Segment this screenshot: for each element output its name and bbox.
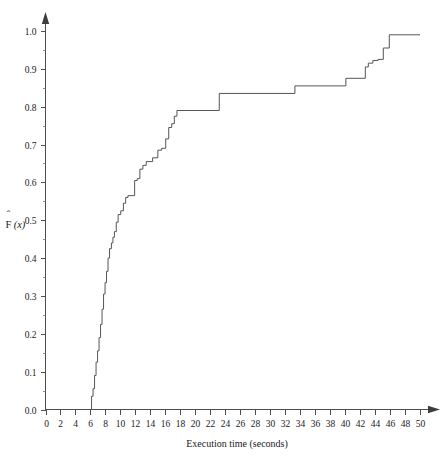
y-axis-title-base: F [6,219,12,230]
y-axis: 0.00.10.20.30.40.50.60.70.80.91.0 [25,12,50,416]
x-tick-label-20: 20 [191,419,201,429]
x-axis-title: Execution time (seconds) [186,438,288,450]
x-tick-label-22: 22 [206,419,216,429]
x-tick-label-46: 46 [386,419,396,429]
x-tick-label-26: 26 [236,419,246,429]
y-tick-label-0.5: 0.5 [25,216,37,226]
x-tick-label-34: 34 [296,419,306,429]
y-tick-label-0.9: 0.9 [25,65,37,75]
y-axis-title: ˆ F (x) [6,209,26,231]
chart-canvas: 0.00.10.20.30.40.50.60.70.80.91.0 024681… [0,0,445,455]
x-axis: 0246810121416182022242628303234363840424… [44,406,440,429]
y-axis-tick-labels: 0.00.10.20.30.40.50.60.70.80.91.0 [25,27,37,416]
x-tick-label-44: 44 [371,419,381,429]
x-tick-label-18: 18 [176,419,186,429]
x-tick-label-40: 40 [341,419,351,429]
y-axis-arrow-icon [42,12,49,24]
x-tick-label-48: 48 [401,419,411,429]
x-tick-label-12: 12 [131,419,141,429]
x-tick-label-2: 2 [58,419,63,429]
x-axis-arrow-icon [428,406,440,413]
x-tick-label-4: 4 [73,419,78,429]
y-tick-label-0.6: 0.6 [25,178,37,188]
x-tick-label-24: 24 [221,419,231,429]
x-tick-label-50: 50 [416,419,426,429]
y-tick-label-0.3: 0.3 [25,292,37,302]
x-axis-tick-labels: 0246810121416182022242628303234363840424… [44,419,425,429]
y-tick-label-0.1: 0.1 [25,368,37,378]
y-tick-label-0.4: 0.4 [25,254,37,264]
x-tick-label-38: 38 [326,419,336,429]
x-tick-label-10: 10 [116,419,126,429]
ecdf-chart: 0.00.10.20.30.40.50.60.70.80.91.0 024681… [0,0,445,455]
y-axis-title-arg: (x) [14,219,26,231]
y-tick-label-1.0: 1.0 [25,27,37,37]
y-tick-label-0.7: 0.7 [25,141,37,151]
x-tick-label-30: 30 [266,419,276,429]
x-axis-major-ticks [47,410,421,415]
y-tick-label-0.2: 0.2 [25,330,37,340]
x-tick-label-36: 36 [311,419,321,429]
x-tick-label-0: 0 [44,419,49,429]
x-tick-label-8: 8 [103,419,108,429]
x-tick-label-14: 14 [146,419,156,429]
x-tick-label-6: 6 [88,419,93,429]
x-tick-label-32: 32 [281,419,291,429]
x-tick-label-16: 16 [161,419,171,429]
y-tick-label-0.8: 0.8 [25,103,37,113]
x-tick-label-42: 42 [356,419,366,429]
x-tick-label-28: 28 [251,419,261,429]
y-tick-label-0.0: 0.0 [25,406,37,416]
ecdf-step-curve [90,35,420,410]
